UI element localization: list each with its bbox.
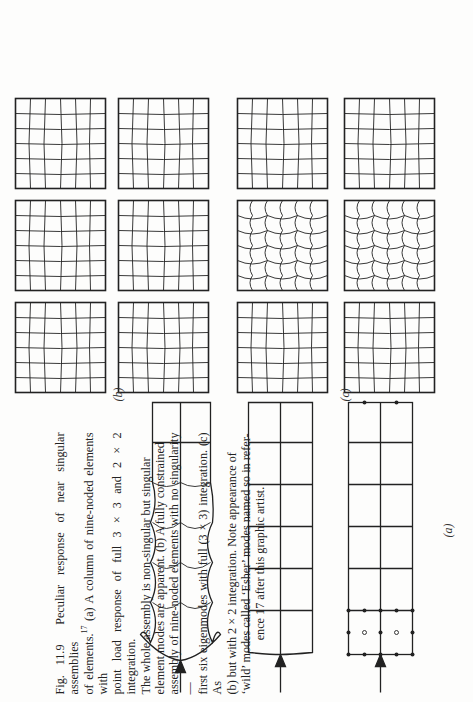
panel-b: (b) bbox=[10, 2, 240, 397]
book-page: Fig. 11.9 Peculiar response of near sing… bbox=[0, 0, 473, 702]
panel-a: (a) bbox=[130, 392, 473, 702]
label-c: (c) bbox=[337, 388, 352, 401]
label-b: (b) bbox=[110, 387, 125, 401]
panel-c-eigenmodes bbox=[232, 2, 467, 397]
panel-c: (c) bbox=[232, 2, 467, 397]
strip-full-3x3 bbox=[248, 402, 312, 692]
label-a: (a) bbox=[440, 523, 455, 537]
panel-b-eigenmodes bbox=[10, 2, 240, 397]
figure-number: Fig. 11.9 bbox=[52, 644, 66, 694]
panel-a-strips bbox=[130, 392, 473, 702]
strip-nine-noded-mesh bbox=[346, 400, 414, 692]
strip-wild-2x2 bbox=[140, 402, 220, 692]
rotated-page-content: Fig. 11.9 Peculiar response of near sing… bbox=[0, 0, 473, 702]
